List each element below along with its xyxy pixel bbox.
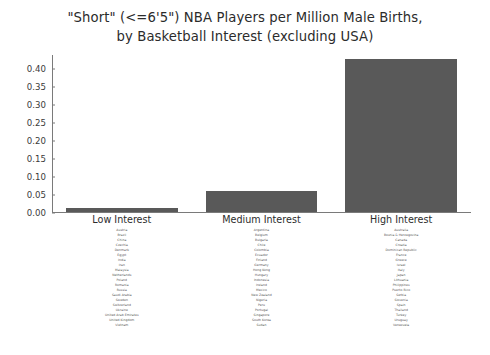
y-axis-tick-mark xyxy=(52,122,55,123)
x-axis-tick-label: Low Interest xyxy=(52,214,192,225)
y-axis-tick-mark xyxy=(52,176,55,177)
y-axis-line xyxy=(52,55,53,213)
bar-low-interest[interactable] xyxy=(66,208,178,212)
country-list: AustriaBrazilChinaCzechiaDenmarkEgyptInd… xyxy=(52,228,192,328)
chart-title-line-2: by Basketball Interest (excluding USA) xyxy=(0,27,490,46)
y-axis-tick-mark xyxy=(52,194,55,195)
plot-area: 0.000.050.100.150.200.250.300.350.40 xyxy=(52,55,471,213)
y-axis-tick-label: 0.05 xyxy=(27,190,52,200)
category-columns: Low InterestAustriaBrazilChinaCzechiaDen… xyxy=(52,214,471,352)
chart-figure: "Short" (<=6'5") NBA Players per Million… xyxy=(0,0,490,355)
y-axis-tick-label: 0.30 xyxy=(27,100,52,110)
chart-title-line-1: "Short" (<=6'5") NBA Players per Million… xyxy=(0,8,490,27)
bar-medium-interest[interactable] xyxy=(206,191,318,212)
y-axis-tick-label: 0.15 xyxy=(27,154,52,164)
x-axis-tick-label: High Interest xyxy=(331,214,471,225)
y-axis-tick-label: 0.25 xyxy=(27,118,52,128)
country-list-item: Vietnam xyxy=(52,323,192,328)
y-axis-tick-label: 0.40 xyxy=(27,64,52,74)
category-column: Medium InterestArgentinaBelgiumBulgariaC… xyxy=(192,214,332,328)
country-list: AustraliaBosnia & HerzegovinaCanadaCroat… xyxy=(331,228,471,328)
category-column: High InterestAustraliaBosnia & Herzegovi… xyxy=(331,214,471,328)
chart-title: "Short" (<=6'5") NBA Players per Million… xyxy=(0,8,490,46)
x-axis-tick-label: Medium Interest xyxy=(192,214,332,225)
x-axis-line xyxy=(52,212,471,213)
y-axis-tick-mark xyxy=(52,104,55,105)
y-axis-tick-label: 0.20 xyxy=(27,136,52,146)
category-column: Low InterestAustriaBrazilChinaCzechiaDen… xyxy=(52,214,192,328)
y-axis-tick-mark xyxy=(52,140,55,141)
y-axis-tick-mark xyxy=(52,158,55,159)
country-list-item: Sudan xyxy=(192,323,332,328)
y-axis-tick-label: 0.35 xyxy=(27,82,52,92)
y-axis-tick-mark xyxy=(52,86,55,87)
country-list-item: Venezuela xyxy=(331,323,471,328)
bar-high-interest[interactable] xyxy=(345,59,457,212)
y-axis-tick-label: 0.10 xyxy=(27,172,52,182)
y-axis-tick-mark xyxy=(52,68,55,69)
y-axis-tick-label: 0.00 xyxy=(27,208,52,218)
country-list: ArgentinaBelgiumBulgariaChileColombiaEcu… xyxy=(192,228,332,328)
